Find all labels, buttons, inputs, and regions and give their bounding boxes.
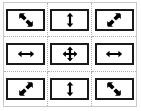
resize-ew-icon <box>105 49 123 59</box>
resize-handle-bottom-center[interactable] <box>50 78 89 100</box>
move-all-directions-icon <box>62 46 78 62</box>
resize-handle-bottom-right[interactable] <box>95 78 134 100</box>
resize-nesw-icon <box>106 12 122 28</box>
grid-cell-bottom-center[interactable] <box>48 72 92 106</box>
resize-nwse-icon <box>106 81 122 97</box>
grid-cell-top-center[interactable] <box>48 3 92 37</box>
resize-handle-middle-right[interactable] <box>95 43 134 65</box>
grid-cell-top-right[interactable] <box>92 3 136 37</box>
resize-cursor-grid-frame <box>3 2 137 107</box>
resize-ns-icon <box>65 81 75 97</box>
grid-cell-top-left[interactable] <box>4 3 48 37</box>
resize-handle-middle-left[interactable] <box>6 43 45 65</box>
grid-cell-middle-center[interactable] <box>48 37 92 71</box>
grid-cell-bottom-right[interactable] <box>92 72 136 106</box>
resize-handle-bottom-left[interactable] <box>6 78 45 100</box>
grid-cell-bottom-left[interactable] <box>4 72 48 106</box>
resize-nwse-icon <box>18 12 34 28</box>
resize-handle-top-left[interactable] <box>6 9 45 31</box>
grid-cell-middle-left[interactable] <box>4 37 48 71</box>
resize-cursor-grid <box>4 3 136 106</box>
resize-ew-icon <box>17 49 35 59</box>
move-handle-center[interactable] <box>50 43 89 65</box>
resize-ns-icon <box>65 12 75 28</box>
resize-handle-top-center[interactable] <box>50 9 89 31</box>
grid-cell-middle-right[interactable] <box>92 37 136 71</box>
resize-nesw-icon <box>18 81 34 97</box>
resize-handle-top-right[interactable] <box>95 9 134 31</box>
